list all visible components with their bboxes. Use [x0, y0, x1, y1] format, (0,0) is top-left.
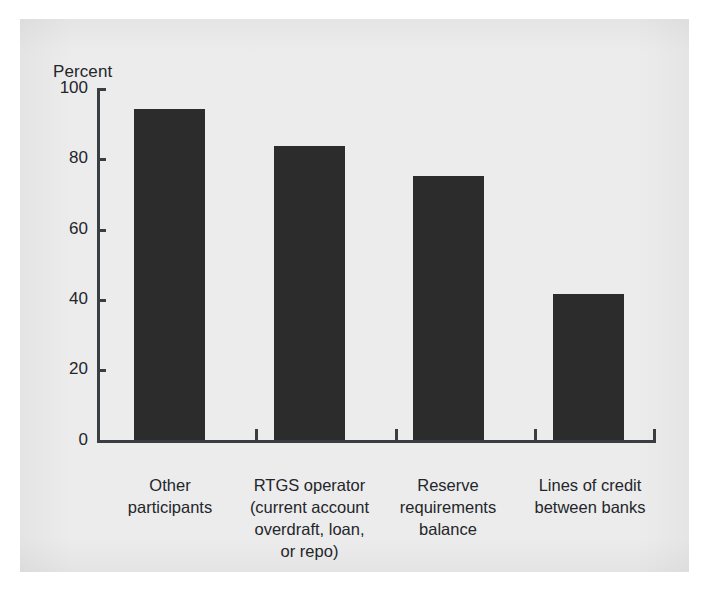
x-axis-spine — [97, 440, 656, 443]
bar-rtgs-operator — [274, 146, 345, 440]
y-tick-label-100: 100 — [42, 78, 88, 98]
x-category-label-4: Lines of credit between banks — [520, 474, 660, 518]
x-category-label-3: Reserve requirements balance — [383, 474, 513, 540]
y-tick-mark-60 — [97, 229, 106, 232]
x-category-label-3-line-1: Reserve — [383, 474, 513, 496]
x-category-label-2-line-4: or repo) — [238, 540, 381, 562]
x-category-label-2: RTGS operator (current account overdraft… — [238, 474, 381, 562]
y-axis-spine — [97, 88, 100, 442]
x-category-label-3-line-3: balance — [383, 518, 513, 540]
x-category-label-1-line-1: Other — [110, 474, 230, 496]
y-tick-mark-100 — [97, 88, 106, 91]
y-tick-label-0: 0 — [42, 430, 88, 450]
x-category-label-2-line-1: RTGS operator — [238, 474, 381, 496]
y-tick-label-20: 20 — [42, 359, 88, 379]
x-category-label-4-line-1: Lines of credit — [520, 474, 660, 496]
x-category-label-4-line-2: between banks — [520, 496, 660, 518]
y-tick-label-40: 40 — [42, 289, 88, 309]
y-tick-mark-40 — [97, 299, 106, 302]
x-tick-mark-2 — [395, 429, 398, 442]
x-tick-mark-3 — [534, 429, 537, 442]
y-tick-mark-20 — [97, 369, 106, 372]
x-category-label-2-line-3: overdraft, loan, — [238, 518, 381, 540]
y-tick-label-80: 80 — [42, 148, 88, 168]
x-category-label-3-line-2: requirements — [383, 496, 513, 518]
y-tick-label-60: 60 — [42, 219, 88, 239]
y-tick-mark-80 — [97, 158, 106, 161]
bar-other-participants — [134, 109, 205, 440]
x-tick-mark-1 — [255, 429, 258, 442]
bar-reserve-requirements — [413, 176, 484, 440]
x-category-label-2-line-2: (current account — [238, 496, 381, 518]
x-category-label-1: Other participants — [110, 474, 230, 518]
figure-panel: Percent 100 80 60 40 20 0 — [20, 19, 689, 572]
x-tick-mark-4 — [653, 429, 656, 442]
bar-lines-of-credit — [553, 294, 624, 440]
bar-chart: Percent 100 80 60 40 20 0 — [20, 19, 689, 572]
x-category-label-1-line-2: participants — [110, 496, 230, 518]
